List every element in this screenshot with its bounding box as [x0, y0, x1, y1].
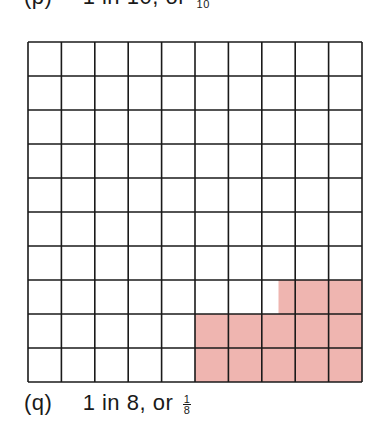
caption-p: (p) 1 in 10, or 1 10	[24, 0, 211, 10]
caption-q-fraction: 1 8	[183, 394, 192, 415]
grid-svg	[27, 41, 363, 383]
caption-q-label: (q)	[24, 390, 76, 416]
fraction-denominator: 8	[183, 405, 192, 415]
hundred-square-grid	[27, 41, 361, 381]
shaded-cells	[279, 280, 363, 314]
shaded-cells	[195, 348, 362, 382]
caption-q: (q) 1 in 8, or 1 8	[24, 390, 191, 416]
caption-q-text: 1 in 8, or	[83, 390, 174, 415]
caption-p-fraction: 1 10	[196, 0, 211, 9]
fraction-denominator: 10	[196, 0, 211, 9]
shaded-cells	[195, 314, 362, 348]
caption-p-label: (p)	[24, 0, 76, 10]
caption-p-text: 1 in 10, or	[83, 0, 186, 9]
